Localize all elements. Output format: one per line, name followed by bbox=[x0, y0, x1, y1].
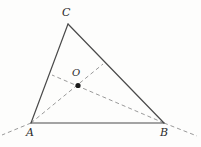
vertex-label-a: A bbox=[26, 127, 34, 138]
triangle-edge-cb bbox=[68, 24, 164, 123]
point-o-dot bbox=[75, 83, 80, 88]
vertex-label-b: B bbox=[160, 127, 168, 138]
figure-canvas bbox=[0, 0, 201, 147]
dashed-extension-beyond-b bbox=[164, 123, 197, 136]
dashed-ray-b-through-o bbox=[52, 75, 164, 123]
geometry-figure: C A B O bbox=[0, 0, 201, 147]
point-label-o: O bbox=[72, 68, 80, 78]
vertex-label-c: C bbox=[62, 7, 70, 18]
